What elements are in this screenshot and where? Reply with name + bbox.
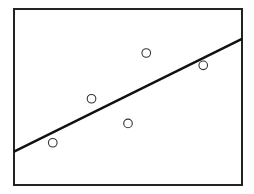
regression-line: [14, 39, 242, 152]
data-point: [124, 119, 133, 128]
scatter-plot: [0, 0, 254, 194]
data-point: [199, 61, 208, 70]
data-point: [87, 94, 96, 103]
data-point: [48, 138, 57, 147]
data-point: [142, 49, 151, 58]
plot-frame: [14, 9, 242, 185]
data-points: [48, 49, 207, 147]
